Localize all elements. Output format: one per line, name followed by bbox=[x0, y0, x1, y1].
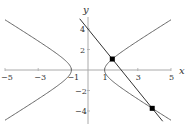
chart: −5−3−1135−4−224 x y bbox=[0, 0, 189, 129]
x-tick-label: 1 bbox=[103, 73, 108, 82]
x-tick-label: 5 bbox=[169, 73, 174, 82]
y-tick-label: 2 bbox=[80, 46, 85, 55]
y-tick-label: 4 bbox=[80, 25, 85, 34]
y-tick-label: −4 bbox=[75, 107, 87, 116]
x-tick-label: −3 bbox=[34, 73, 46, 82]
intersection-point bbox=[150, 106, 155, 111]
x-axis-label: x bbox=[179, 65, 185, 76]
intersection-point bbox=[110, 57, 115, 62]
y-tick-label: −2 bbox=[75, 87, 87, 96]
x-tick-label: −5 bbox=[1, 73, 13, 82]
x-tick-label: 3 bbox=[136, 73, 141, 82]
y-axis-label: y bbox=[82, 4, 89, 15]
x-tick-label: −1 bbox=[67, 73, 79, 82]
axes: −5−3−1135−4−224 bbox=[1, 17, 174, 124]
